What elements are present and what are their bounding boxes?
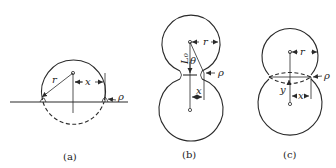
label-r: r xyxy=(52,74,58,85)
panel-b: r L₀ θ x ρ (b) xyxy=(159,15,224,160)
label-x: x xyxy=(298,90,304,101)
dashed-arc xyxy=(43,102,104,124)
panel-c: r y x ρ (c) xyxy=(258,28,330,160)
label-y: y xyxy=(279,84,286,95)
label-x: x xyxy=(85,76,91,87)
bottom-center xyxy=(188,108,191,111)
sintering-models-diagram: r x ρ (a) r L₀ θ x ρ xyxy=(0,0,336,168)
bottom-center xyxy=(288,102,291,105)
label-rho: ρ xyxy=(117,91,124,102)
label-r: r xyxy=(300,46,306,57)
panel-a: r x ρ (a) xyxy=(10,60,128,162)
caption-c: (c) xyxy=(283,149,297,160)
rho-arrow xyxy=(108,99,116,100)
caption-a: (a) xyxy=(63,151,77,162)
rho-arrow xyxy=(313,76,322,77)
neck-fillet-right xyxy=(201,71,203,79)
neck-fillet-left xyxy=(180,71,182,79)
label-x: x xyxy=(196,85,202,96)
label-theta: θ xyxy=(190,55,196,66)
neck-fillet-left xyxy=(40,98,46,102)
caption-b: (b) xyxy=(182,149,196,160)
label-rho: ρ xyxy=(323,70,330,81)
label-l0: L₀ xyxy=(179,53,190,65)
radius-line xyxy=(42,73,73,97)
label-rho: ρ xyxy=(217,67,224,78)
label-r: r xyxy=(203,36,209,47)
